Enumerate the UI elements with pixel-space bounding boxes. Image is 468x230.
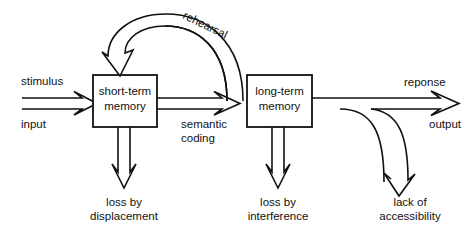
input-label: input <box>21 118 47 130</box>
loss-by-displacement-label-line2: displacement <box>90 210 159 222</box>
lack-of-accessibility-label-line1: lack of <box>393 196 427 208</box>
stm-label-line2: memory <box>104 100 146 112</box>
loss-by-displacement-label-line1: loss by <box>106 196 142 208</box>
response-label: reponse <box>404 76 446 88</box>
loss-by-interference-arrow <box>266 127 290 188</box>
lack-of-accessibility-arrow <box>340 109 415 196</box>
loss-by-displacement-arrow <box>112 127 136 188</box>
stimulus-label: stimulus <box>21 75 63 87</box>
memory-model-diagram: short-term memory long-term memory stimu… <box>0 0 468 230</box>
stm-label-line1: short-term <box>99 85 151 97</box>
rehearsal-label: rehearsal <box>181 9 229 41</box>
ltm-label-line1: long-term <box>255 85 304 97</box>
diagram-canvas: short-term memory long-term memory stimu… <box>0 0 468 230</box>
ltm-label-line2: memory <box>259 100 301 112</box>
semantic-coding-label-line2: coding <box>181 132 215 144</box>
output-label: output <box>429 118 462 130</box>
loss-by-interference-label-line2: interference <box>248 210 309 222</box>
lack-of-accessibility-label-line2: accessibility <box>379 210 441 222</box>
stimulus-input-arrow <box>22 92 97 116</box>
response-output-arrow <box>312 91 459 116</box>
semantic-coding-label-line1: semantic <box>181 118 227 130</box>
loss-by-interference-label-line1: loss by <box>260 196 296 208</box>
